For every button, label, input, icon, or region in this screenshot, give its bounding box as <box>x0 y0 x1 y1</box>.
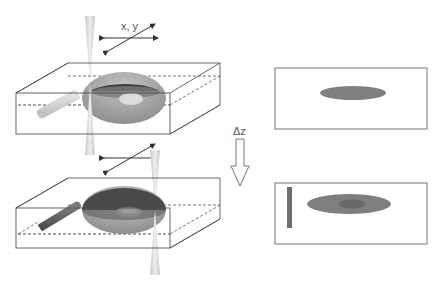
top-view-panel-2 <box>275 183 427 244</box>
top-view-panel-1 <box>275 68 427 129</box>
xy-label: x, y <box>121 20 139 32</box>
xy-arrows-icon-lower <box>104 144 158 171</box>
specimen-top <box>82 72 166 124</box>
bottom-scene <box>16 144 220 275</box>
delta-z-arrow-icon <box>231 139 249 186</box>
specimen-bottom <box>82 186 166 234</box>
laser-beam-upper <box>85 16 95 84</box>
diagram-canvas: x, y <box>0 0 441 298</box>
panel-ellipse <box>320 86 386 100</box>
panel-bar <box>287 187 292 228</box>
panel-inner-ellipse <box>339 200 365 208</box>
delta-z-label: Δz <box>233 125 246 137</box>
rod-dark <box>38 201 82 231</box>
top-scene: x, y <box>16 16 220 155</box>
